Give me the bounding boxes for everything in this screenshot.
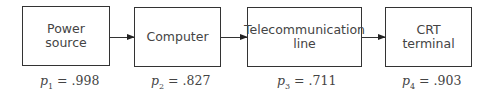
- block-label: CRT terminal: [402, 23, 454, 51]
- block-crt-terminal: CRT terminal: [385, 7, 472, 67]
- block-label: Power source: [45, 22, 87, 50]
- block-telecommunication-line: Telecommunication line: [247, 7, 362, 67]
- block-computer: Computer: [134, 7, 221, 67]
- block-power-source: Power source: [22, 6, 110, 66]
- probability-label-3: p3 = .711: [277, 73, 336, 91]
- arrow-3: [362, 37, 385, 38]
- probability-label-1: p1 = .998: [40, 73, 99, 91]
- arrow-1: [110, 37, 134, 38]
- probability-label-4: p4 = .903: [402, 73, 461, 91]
- block-label: Telecommunication line: [244, 23, 365, 51]
- block-label: Computer: [146, 30, 208, 44]
- probability-label-2: p2 = .827: [151, 73, 210, 91]
